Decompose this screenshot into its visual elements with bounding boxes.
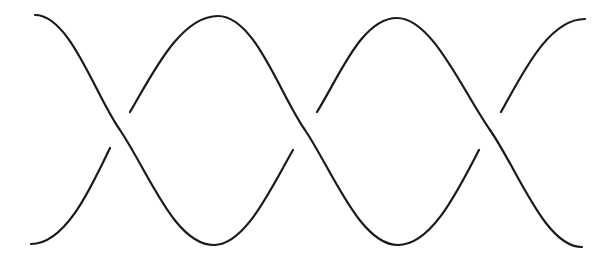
strand-b-segment-3 bbox=[501, 19, 585, 112]
strand-a-segment-1 bbox=[35, 15, 214, 245]
strand-b-segment-2 bbox=[130, 16, 479, 245]
strand-a-segment-3 bbox=[317, 18, 582, 247]
strand-b-segment-1 bbox=[31, 148, 110, 244]
strand-a-segment-2 bbox=[214, 150, 293, 245]
braid-strands bbox=[31, 15, 585, 247]
braid-diagram bbox=[0, 0, 612, 261]
